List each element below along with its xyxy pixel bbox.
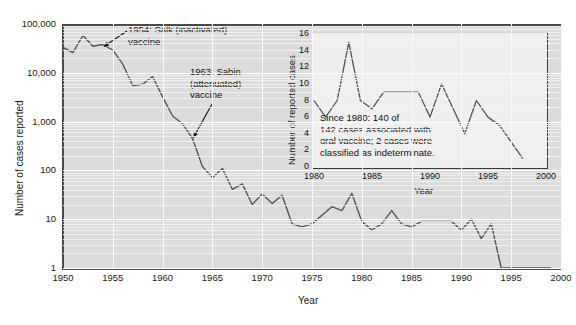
inset-y-tick-label: 4 bbox=[295, 128, 309, 138]
main-gridline-v bbox=[561, 24, 562, 268]
inset-y-tick-label: 12 bbox=[295, 61, 309, 71]
main-y-tick-label: 10 bbox=[2, 213, 56, 224]
inset-x-tick-label: 2000 bbox=[528, 171, 564, 181]
main-x-tick-label: 1960 bbox=[141, 272, 185, 283]
inset-x-tick-label: 1990 bbox=[412, 171, 448, 181]
inset-x-tick-label: 1985 bbox=[354, 171, 390, 181]
main-x-tick-label: 2000 bbox=[539, 272, 576, 283]
inset-x-tick-label: 1980 bbox=[296, 171, 332, 181]
main-gridline-v bbox=[262, 24, 263, 268]
inset-y-tick-label: 14 bbox=[295, 45, 309, 55]
main-gridline-v bbox=[113, 24, 114, 268]
main-x-tick-label: 1955 bbox=[91, 272, 135, 283]
inset-y-tick-label: 6 bbox=[295, 111, 309, 121]
main-x-tick-label: 1965 bbox=[190, 272, 234, 283]
main-gridline-v bbox=[362, 24, 363, 268]
main-x-tick-label: 1995 bbox=[489, 272, 533, 283]
main-gridline-v bbox=[212, 24, 213, 268]
inset-y-tick-label: 0 bbox=[295, 161, 309, 171]
main-gridline-v bbox=[511, 24, 512, 268]
main-x-tick-label: 1985 bbox=[390, 272, 434, 283]
main-gridline-v bbox=[461, 24, 462, 268]
main-gridline-v bbox=[163, 24, 164, 268]
main-x-tick-label: 1990 bbox=[439, 272, 483, 283]
main-gridline-h bbox=[63, 268, 561, 269]
main-y-tick-label: 100,000 bbox=[2, 18, 56, 29]
main-x-tick-label: 1975 bbox=[290, 272, 334, 283]
inset-x-tick-label: 1995 bbox=[470, 171, 506, 181]
main-y-tick-label: 10,000 bbox=[2, 67, 56, 78]
main-gridline-v bbox=[312, 24, 313, 268]
inset-y-tick-label: 10 bbox=[295, 78, 309, 88]
main-x-tick-label: 1970 bbox=[240, 272, 284, 283]
main-x-tick-label: 1950 bbox=[41, 272, 85, 283]
inset-y-tick-label: 16 bbox=[295, 28, 309, 38]
inset-y-tick-label: 8 bbox=[295, 95, 309, 105]
main-x-tick-label: 1980 bbox=[340, 272, 384, 283]
inset-y-tick-label: 2 bbox=[295, 144, 309, 154]
main-y-tick-label: 1,000 bbox=[2, 116, 56, 127]
main-gridline-v bbox=[412, 24, 413, 268]
main-y-tick-label: 100 bbox=[2, 164, 56, 175]
